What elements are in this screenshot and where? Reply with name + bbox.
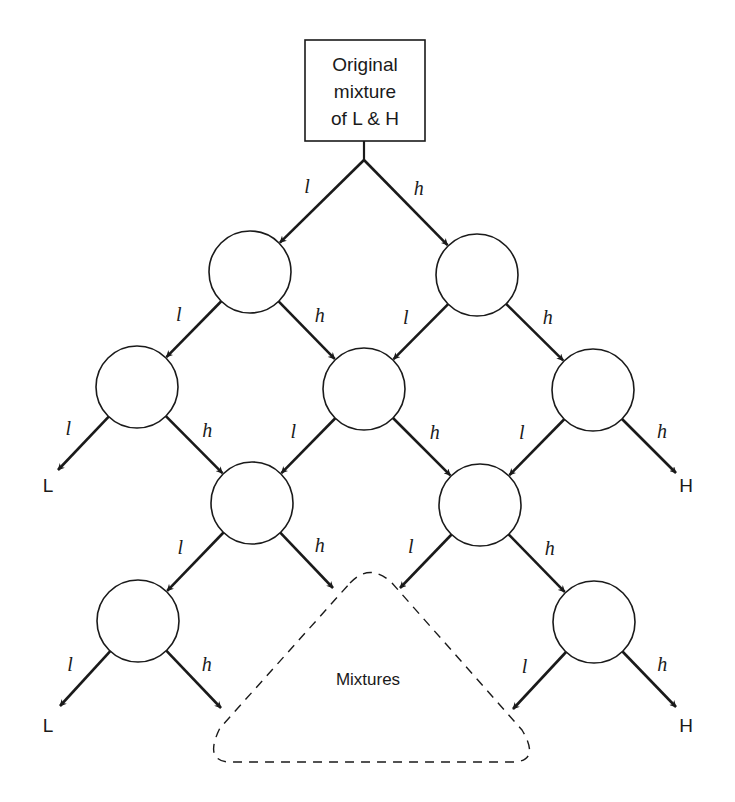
edge-label-light: l xyxy=(408,535,414,557)
end-label-light-upper: L xyxy=(43,475,54,496)
edge-arrow-n2b-to-n3a xyxy=(281,418,335,473)
edge-label-light: l xyxy=(304,175,310,197)
edge-label-light: l xyxy=(291,420,297,442)
mixtures-region xyxy=(214,573,530,763)
edge-arrow-n1b-to-n2b xyxy=(394,304,449,359)
edge-label-light: l xyxy=(403,306,409,328)
edge-arrow-n2b-to-n3b xyxy=(393,418,450,475)
start-box-line-3: of L & H xyxy=(331,108,399,129)
edge-arrow-n3a-to-mixtures xyxy=(280,533,333,588)
edge-label-light: l xyxy=(66,417,72,439)
edge-label-heavy: h xyxy=(202,419,212,441)
start-box-line-2: mixture xyxy=(334,81,396,102)
separation-stage-n1a xyxy=(209,231,291,313)
edge-label-light: l xyxy=(522,655,528,677)
edge-label-light: l xyxy=(176,303,182,325)
start-box-line-1: Original xyxy=(332,54,397,75)
nodes xyxy=(96,231,635,663)
edge-label-heavy: h xyxy=(202,653,212,675)
edge-label-heavy: h xyxy=(430,421,440,443)
edge-arrow-n2a-to-n3a xyxy=(166,416,223,473)
edge-arrow-n1b-to-n2c xyxy=(506,304,563,361)
start-box: Original mixture of L & H xyxy=(305,40,425,141)
edge-label-heavy: h xyxy=(315,534,325,556)
separation-stage-n3b xyxy=(439,464,521,546)
edge-arrow-n1a-to-n2a xyxy=(166,301,221,357)
separation-stage-n1b xyxy=(436,234,518,316)
edge-label-heavy: h xyxy=(657,420,667,442)
edge-arrow-n3a-to-n4a xyxy=(167,532,223,590)
end-label-heavy-upper: H xyxy=(679,475,693,496)
separation-stage-n2c xyxy=(552,349,634,431)
edge-arrow-n2c-to-H xyxy=(622,419,676,473)
edge-arrow-n2c-to-n3b xyxy=(509,419,564,475)
separation-stage-n2a xyxy=(96,346,178,428)
edge-label-light: l xyxy=(67,653,73,675)
edge-arrow-n4b-to-H xyxy=(622,652,676,707)
separation-stage-n3a xyxy=(211,462,293,544)
end-label-light-lower: L xyxy=(43,715,54,736)
edge-label-heavy: h xyxy=(414,177,424,199)
edge-arrow-n1a-to-n2b xyxy=(279,301,335,359)
end-label-heavy-lower: H xyxy=(679,715,693,736)
edge-label-light: l xyxy=(178,536,184,558)
edge-arrow-start-to-n1b xyxy=(364,160,448,245)
edge-arrow-start-to-n1a xyxy=(280,160,364,243)
edge-arrow-n3b-to-n4b xyxy=(509,534,565,592)
separation-stage-n4a xyxy=(97,580,179,662)
edge-arrow-n4a-to-mixtures xyxy=(166,651,221,708)
cascade-diagram: Original mixture of L & H Mixtures lhlhl… xyxy=(0,0,735,802)
edge-label-light: l xyxy=(519,421,525,443)
mixtures-label: Mixtures xyxy=(336,670,400,689)
edge-label-heavy: h xyxy=(545,537,555,559)
edge-label-heavy: h xyxy=(315,304,325,326)
separation-stage-n2b xyxy=(323,348,405,430)
edge-label-heavy: h xyxy=(657,653,667,675)
edge-label-heavy: h xyxy=(543,306,553,328)
separation-stage-n4b xyxy=(553,581,635,663)
